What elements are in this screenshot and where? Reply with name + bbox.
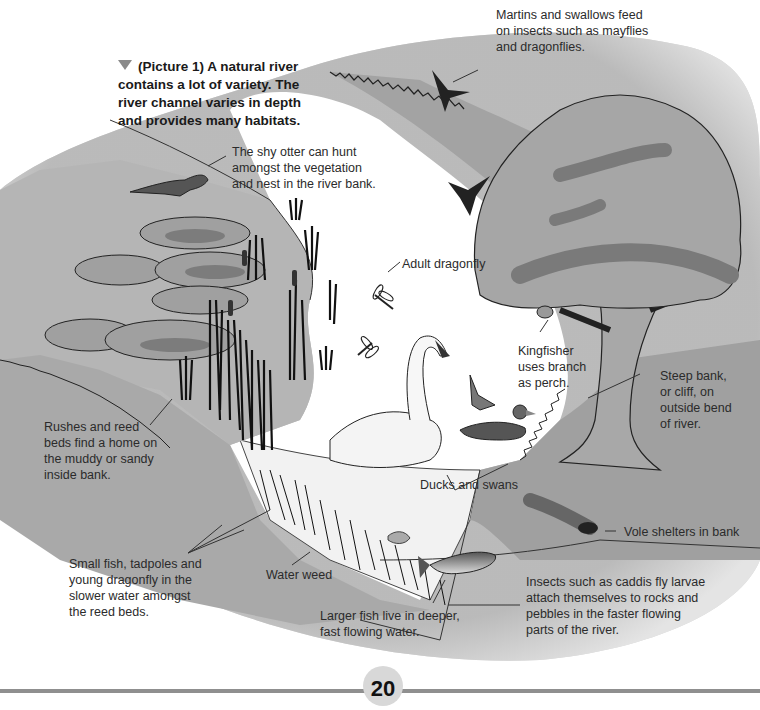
kingfisher — [537, 306, 553, 318]
label-rushes-reeds: Rushes and reed beds find a home on the … — [44, 419, 224, 483]
label-steep-bank: Steep bank, or cliff, on outside bend of… — [660, 368, 760, 432]
label-kingfisher: Kingfisher uses branch as perch. — [518, 343, 618, 391]
label-adult-dragonfly: Adult dragonfly — [402, 256, 485, 272]
page-number: 20 — [363, 666, 403, 706]
label-vole: Vole shelters in bank — [624, 524, 739, 540]
figure-caption: (Picture 1) A natural river contains a l… — [118, 40, 358, 130]
label-insects: Insects such as caddis fly larvae attach… — [526, 574, 760, 638]
caption-text: (Picture 1) A natural river contains a l… — [118, 59, 301, 128]
footer-rule-right — [400, 689, 760, 693]
label-martins-swallows: Martins and swallows feed on insects suc… — [496, 7, 736, 55]
footer-rule-left — [0, 689, 365, 693]
label-small-fish: Small fish, tadpoles and young dragonfly… — [69, 556, 269, 620]
label-otter: The shy otter can hunt amongst the veget… — [232, 144, 452, 192]
caption-triangle-icon — [118, 60, 132, 70]
label-larger-fish: Larger fish live in deeper, fast flowing… — [320, 608, 500, 640]
label-ducks-swans: Ducks and swans — [420, 477, 518, 493]
label-water-weed: Water weed — [266, 567, 332, 583]
